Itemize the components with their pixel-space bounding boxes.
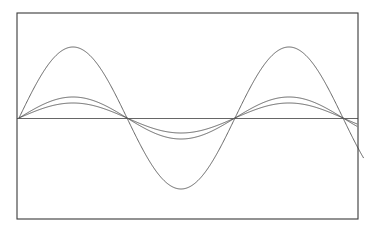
plot-canvas <box>0 0 375 233</box>
figure-root <box>0 0 375 233</box>
figure-background <box>0 0 375 233</box>
